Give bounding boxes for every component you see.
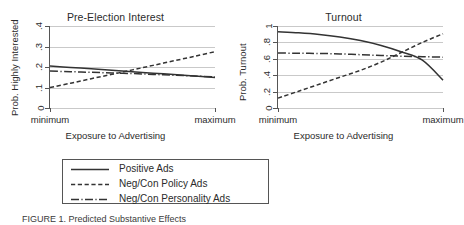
y-axis-label-left: Prob. Highly Interested bbox=[9, 19, 20, 116]
y-tick-label: 0 bbox=[36, 105, 46, 110]
y-tick-mark bbox=[273, 92, 277, 93]
y-tick-label: .2 bbox=[34, 63, 44, 71]
figure-caption: FIGURE 1. Predicted Substantive Effects bbox=[22, 214, 442, 225]
y-tick-mark bbox=[45, 67, 49, 68]
x-tick-label: minimum bbox=[259, 114, 298, 125]
gridline bbox=[50, 108, 215, 109]
y-tick-label: .4 bbox=[34, 22, 44, 30]
series-lines-left bbox=[50, 26, 215, 108]
chart-panel-turnout: Turnout Prob. Turnout 0.2.4.6.81 minimum… bbox=[236, 8, 451, 148]
x-tick-label: maximum bbox=[194, 114, 235, 125]
x-tick-label: maximum bbox=[422, 114, 463, 125]
x-tick-mark bbox=[215, 108, 216, 112]
y-tick-label: 0 bbox=[264, 105, 274, 110]
y-tick-mark bbox=[273, 42, 277, 43]
y-tick-mark bbox=[45, 26, 49, 27]
x-axis-label-right: Exposure to Advertising bbox=[236, 130, 451, 141]
y-tick-mark bbox=[45, 47, 49, 48]
plot-area-right: 0.2.4.6.81 minimummaximum bbox=[278, 26, 443, 108]
x-tick-mark bbox=[278, 108, 279, 112]
series-line bbox=[278, 34, 443, 98]
legend-item: Neg/Con Policy Ads bbox=[63, 177, 268, 190]
gridline bbox=[278, 108, 443, 109]
series-line bbox=[50, 52, 215, 88]
legend-item: Positive Ads bbox=[63, 162, 268, 175]
legend-label: Neg/Con Policy Ads bbox=[119, 177, 207, 190]
legend-label: Positive Ads bbox=[119, 162, 173, 175]
series-lines-right bbox=[278, 26, 443, 108]
y-tick-mark bbox=[273, 75, 277, 76]
y-tick-label: 1 bbox=[264, 23, 274, 28]
solid-line-sample bbox=[71, 168, 109, 170]
x-tick-mark bbox=[50, 108, 51, 112]
y-tick-label: .1 bbox=[34, 84, 44, 92]
dashdot-line-sample bbox=[71, 198, 109, 200]
chart-panel-pre-election-interest: Pre-Election Interest Prob. Highly Inter… bbox=[8, 8, 223, 148]
panel-title-right: Turnout bbox=[236, 11, 451, 23]
x-tick-label: minimum bbox=[31, 114, 70, 125]
y-tick-label: .8 bbox=[262, 38, 272, 46]
y-tick-label: .3 bbox=[34, 43, 44, 51]
x-tick-mark bbox=[443, 108, 444, 112]
series-line bbox=[278, 53, 443, 57]
y-tick-label: .2 bbox=[262, 88, 272, 96]
y-tick-mark bbox=[273, 59, 277, 60]
plot-area-left: 0.1.2.3.4 minimummaximum bbox=[50, 26, 215, 108]
dashed-line-sample bbox=[71, 183, 109, 185]
legend-item: Neg/Con Personality Ads bbox=[63, 192, 268, 205]
x-axis-label-left: Exposure to Advertising bbox=[8, 130, 223, 141]
legend-label: Neg/Con Personality Ads bbox=[119, 192, 230, 205]
chart-legend: Positive Ads Neg/Con Policy Ads Neg/Con … bbox=[62, 159, 269, 204]
y-tick-label: .4 bbox=[262, 71, 272, 79]
y-tick-label: .6 bbox=[262, 55, 272, 63]
y-tick-mark bbox=[45, 88, 49, 89]
y-axis-label-right: Prob. Turnout bbox=[237, 43, 248, 101]
